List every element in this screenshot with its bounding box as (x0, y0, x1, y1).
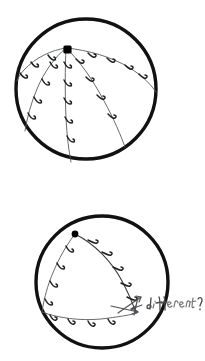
ink-letter-n (186, 301, 190, 307)
north-pole-vertex-dot (63, 45, 71, 53)
tangent-vector-group-left (45, 246, 74, 305)
tangent-vector-group-right (88, 240, 137, 300)
ink-letter-d (147, 298, 151, 309)
diagram-canvas (0, 0, 205, 361)
ink-question-mark (198, 298, 202, 310)
triangle-apex-vertex-dot (72, 231, 79, 238)
tangent-vector-hook (57, 263, 65, 269)
tangent-vector-hook (48, 55, 56, 60)
handwritten-different-note (147, 297, 202, 310)
tangent-vector-hook (127, 297, 137, 300)
tangent-vector-hook (50, 62, 58, 68)
ink-letter-r (174, 301, 178, 307)
geodesic-side-base (42, 312, 137, 320)
tangent-vector-hook (28, 113, 36, 119)
tangent-vector-hook (20, 73, 28, 78)
tangent-vector-hook (34, 97, 42, 103)
tangent-vector-hook (42, 79, 50, 85)
tangent-vector-hook (66, 246, 74, 252)
tangent-vector-hook (88, 53, 96, 57)
ink-letter-i (153, 301, 155, 308)
geodesic-arc-5 (66, 48, 156, 92)
tangent-vector-group-5 (88, 53, 147, 78)
tangent-vector-group-4 (76, 59, 116, 118)
tangent-vector-hook (139, 74, 147, 78)
geodesic-arc-4 (66, 48, 125, 147)
ink-letter-e (168, 302, 172, 307)
tangent-vector-hook (50, 281, 58, 287)
sphere-outline-bottom (36, 216, 168, 348)
figure-bottom (36, 216, 202, 348)
figure-top (16, 19, 156, 162)
geodesic-side-right (75, 234, 136, 313)
tangent-vector-hook (108, 319, 115, 324)
ink-letter-e2 (180, 302, 184, 307)
figure-root: Geodesics and parallel transport on a sp… (0, 0, 205, 361)
tangent-vector-group-2 (28, 62, 58, 119)
tangent-vector-hook (76, 59, 84, 63)
tangent-vector-hook (31, 62, 39, 67)
ink-letter-t (190, 298, 196, 308)
tangent-vector-hook (68, 319, 75, 324)
tangent-vector-hook (121, 283, 131, 286)
tangent-vector-hook (88, 321, 95, 326)
geodesic-triangle-bottom (42, 234, 137, 320)
tangent-vector-hook (45, 299, 53, 305)
